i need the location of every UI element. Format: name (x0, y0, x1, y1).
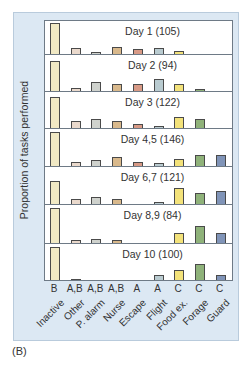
bar-forage (195, 264, 205, 280)
panel-title: Day 8,9 (84) (45, 209, 232, 221)
bar-guard (216, 233, 226, 243)
panel-title: Day 4,5 (146) (45, 133, 232, 145)
bar-inactive (50, 23, 60, 54)
bar-food-ex- (174, 270, 184, 280)
panel-title: Day 1 (105) (45, 25, 232, 37)
bar-guard (216, 191, 226, 204)
bar-escape (133, 49, 143, 54)
bar-p-alarm (91, 239, 101, 243)
bar-p-alarm (91, 160, 101, 166)
bar-other (71, 88, 81, 91)
significance-letter: C (210, 283, 230, 294)
bar-nurse (112, 157, 122, 166)
bar-other (71, 48, 81, 54)
bar-forage (195, 89, 205, 91)
panel-2: Day 3 (122) (45, 92, 232, 129)
bar-inactive (50, 208, 60, 243)
significance-letter: A,B (106, 283, 126, 294)
panel-0: Day 1 (105) (45, 21, 232, 55)
panel-title: Day 2 (94) (45, 59, 232, 71)
significance-letter: C (168, 283, 188, 294)
y-axis-label: Proportion of tasks performed (18, 81, 30, 219)
bar-p-alarm (91, 197, 101, 204)
plot-area: Day 1 (105)Day 2 (94)Day 3 (122)Day 4,5 … (44, 20, 233, 281)
significance-letter: A,B (65, 283, 85, 294)
bar-p-alarm (91, 82, 101, 91)
bar-nurse (112, 47, 122, 54)
bar-flight (154, 202, 164, 204)
bar-escape (133, 84, 143, 91)
panel-3: Day 4,5 (146) (45, 129, 232, 167)
significance-letter: A (148, 283, 168, 294)
bar-inactive (50, 181, 60, 204)
bar-escape (133, 124, 143, 128)
panel-4: Day 6,7 (121) (45, 167, 232, 205)
significance-letter: A (127, 283, 147, 294)
bar-flight (154, 48, 164, 54)
significance-letter: B (44, 283, 64, 294)
bar-food-ex- (174, 117, 184, 128)
bar-forage (195, 119, 205, 128)
bar-flight (154, 163, 164, 166)
panel-title: Day 6,7 (121) (45, 171, 232, 183)
panel-label: (B) (12, 345, 27, 357)
bar-forage (195, 155, 205, 166)
bar-nurse (112, 84, 122, 91)
panel-1: Day 2 (94) (45, 55, 232, 92)
bar-food-ex- (174, 188, 184, 204)
panel-title: Day 10 (100) (45, 248, 232, 260)
bar-inactive (50, 61, 60, 91)
significance-letter: C (189, 283, 209, 294)
bar-p-alarm (91, 52, 101, 54)
bar-other (71, 279, 81, 281)
bar-guard (216, 155, 226, 166)
bar-food-ex- (174, 51, 184, 54)
bar-inactive (50, 247, 60, 280)
bar-food-ex- (174, 84, 184, 91)
bar-nurse (112, 199, 122, 204)
bar-inactive (50, 97, 60, 128)
bar-guard (216, 275, 226, 280)
bar-other (71, 240, 81, 243)
panel-title: Day 3 (122) (45, 96, 232, 108)
bar-other (71, 199, 81, 204)
bar-flight (154, 79, 164, 91)
bar-forage (195, 193, 205, 204)
bar-food-ex- (174, 233, 184, 243)
bar-escape (133, 162, 143, 166)
bar-inactive (50, 132, 60, 166)
panel-5: Day 8,9 (84) (45, 205, 232, 244)
bar-nurse (112, 240, 122, 243)
bar-nurse (112, 121, 122, 128)
bar-other (71, 162, 81, 166)
bar-food-ex- (174, 159, 184, 166)
bar-p-alarm (91, 119, 101, 128)
bar-forage (195, 226, 205, 243)
bar-other (71, 121, 81, 128)
bar-flight (154, 275, 164, 280)
significance-letter: A,B (85, 283, 105, 294)
bar-flight (154, 126, 164, 128)
panel-6: Day 10 (100) (45, 244, 232, 281)
